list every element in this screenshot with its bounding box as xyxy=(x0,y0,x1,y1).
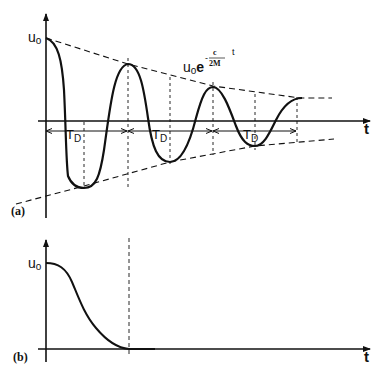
envelope-exponent-variable: t xyxy=(232,47,235,57)
lower-envelope xyxy=(16,139,334,204)
period-label-3: TD xyxy=(243,127,258,144)
panel-a-label: (a) xyxy=(11,204,25,218)
period-label-1: TD xyxy=(66,127,81,144)
panel-b-label: (b) xyxy=(13,350,28,364)
panel-b-x-label: t xyxy=(364,348,369,365)
envelope-exponent-denominator: 2M xyxy=(209,59,221,68)
panel-a: TD TD TD uo uoe - c 2M t t (a) xyxy=(11,14,370,218)
envelope-exponent-numerator: c xyxy=(213,48,217,57)
panel-b-y-label: uo xyxy=(28,255,42,272)
envelope-exponent-minus: - xyxy=(205,53,208,63)
panel-a-y-label: uo xyxy=(28,29,42,46)
period-label-2: TD xyxy=(152,127,167,144)
panel-a-x-label: t xyxy=(364,120,369,137)
critically-damped-curve xyxy=(46,263,155,349)
damped-vibration-diagram: TD TD TD uo uoe - c 2M t t (a) uo t (b xyxy=(0,0,388,377)
envelope-formula: uoe xyxy=(183,59,204,76)
panel-b: uo t (b) xyxy=(13,238,370,365)
